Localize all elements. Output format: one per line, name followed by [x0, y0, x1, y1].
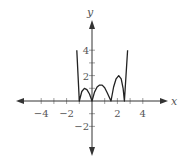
x-axis-right-arrow-icon — [160, 98, 168, 104]
x-axis-left-arrow-icon — [16, 98, 24, 104]
y-axis-down-arrow-icon — [89, 147, 95, 156]
y-axis-label: y — [86, 6, 94, 19]
tick-labels: −4−224−224 — [34, 45, 146, 132]
y-tick-label: −2 — [74, 121, 89, 132]
chart: x y −4−224−224 — [0, 0, 185, 161]
y-tick-label: 2 — [83, 71, 89, 82]
y-axis-up-arrow-icon — [89, 20, 95, 29]
x-tick-label: 2 — [114, 108, 120, 119]
x-tick-label: −2 — [59, 108, 74, 119]
x-tick-label: −4 — [34, 108, 49, 119]
x-tick-label: 4 — [140, 108, 146, 119]
x-axis-label: x — [171, 95, 178, 108]
y-tick-label: 4 — [83, 45, 89, 56]
